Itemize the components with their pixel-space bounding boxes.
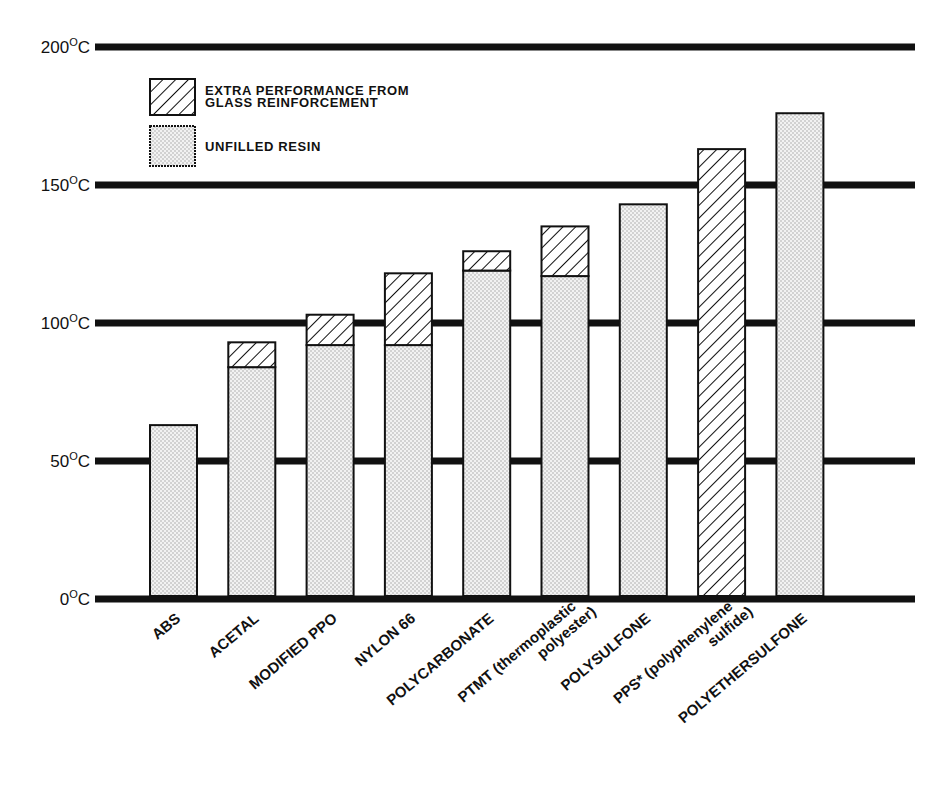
- x-tick-label: PTMT (thermoplasticpolyester): [454, 590, 599, 719]
- bar-3: [307, 315, 354, 596]
- heat-resistance-bar-chart: 0OC50OC100OC150OC200OC ABSACETALMODIFIED…: [0, 0, 951, 792]
- bar-segment-unfilled: [385, 345, 432, 596]
- bar-segment-glass: [698, 149, 745, 596]
- y-tick-label: 100OC: [41, 312, 90, 333]
- x-axis-labels: ABSACETALMODIFIED PPONYLON 66POLYCARBONA…: [148, 590, 810, 727]
- bar-segment-unfilled: [463, 271, 510, 596]
- bar-segment-glass: [542, 226, 589, 276]
- y-tick-label: 50OC: [50, 450, 90, 471]
- y-tick-label: 150OC: [41, 174, 90, 195]
- bar-6: [542, 226, 589, 596]
- x-tick-label: NYLON 66: [351, 609, 418, 669]
- legend-label-glass: EXTRA PERFORMANCE FROM GLASS REINFORCEME…: [205, 83, 413, 110]
- bar-segment-glass: [463, 251, 510, 270]
- x-tick-label: ABS: [148, 609, 183, 642]
- bar-8: [698, 149, 745, 596]
- bar-segment-glass: [385, 273, 432, 345]
- y-axis-labels: 0OC50OC100OC150OC200OC: [41, 36, 90, 609]
- legend-swatch-glass: [150, 79, 195, 115]
- x-tick-label: PPS* (polyphenylenesulfide): [610, 590, 756, 720]
- legend: EXTRA PERFORMANCE FROM GLASS REINFORCEME…: [150, 79, 413, 166]
- bar-7: [620, 204, 667, 596]
- legend-swatch-unfilled: [150, 126, 195, 166]
- legend-label-unfilled: UNFILLED RESIN: [205, 139, 321, 154]
- bar-segment-unfilled: [150, 425, 197, 596]
- bar-segment-unfilled: [542, 276, 589, 596]
- bar-2: [228, 342, 275, 596]
- y-tick-label: 200OC: [41, 36, 90, 57]
- bar-segment-unfilled: [776, 113, 823, 596]
- bar-segment-unfilled: [228, 367, 275, 596]
- bar-4: [385, 273, 432, 596]
- bar-segment-unfilled: [307, 345, 354, 596]
- y-tick-label: 0OC: [60, 588, 90, 609]
- bar-segment-glass: [228, 342, 275, 367]
- bar-5: [463, 251, 510, 596]
- bar-9: [776, 113, 823, 596]
- x-tick-label: ACETAL: [205, 609, 262, 660]
- bar-1: [150, 425, 197, 596]
- bar-segment-glass: [307, 315, 354, 345]
- bar-segment-unfilled: [620, 204, 667, 596]
